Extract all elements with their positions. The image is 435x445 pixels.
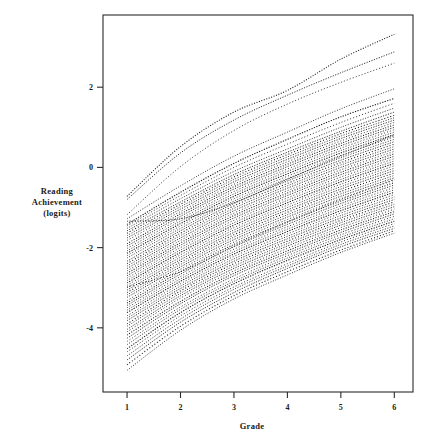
x-tick-label: 4: [285, 403, 289, 412]
y-axis-label-line: Reading: [18, 186, 96, 197]
x-tick-label: 3: [232, 403, 236, 412]
y-axis-label-line: (logits): [18, 208, 96, 219]
x-tick-label: 5: [339, 403, 343, 412]
y-axis-label: ReadingAchievement(logits): [18, 186, 96, 219]
y-tick-label: 2: [89, 83, 93, 92]
x-tick-label: 6: [392, 403, 396, 412]
y-axis-label-line: Achievement: [18, 197, 96, 208]
y-tick-label: -2: [86, 244, 93, 253]
x-axis-label: Grade: [222, 421, 282, 432]
chart-background: [0, 0, 435, 445]
y-tick-label: -4: [86, 324, 93, 333]
x-tick-label: 1: [125, 403, 129, 412]
growth-trajectory-chart: 12345620-2-4: [0, 0, 435, 445]
y-tick-label: 0: [89, 163, 93, 172]
x-tick-label: 2: [179, 403, 183, 412]
